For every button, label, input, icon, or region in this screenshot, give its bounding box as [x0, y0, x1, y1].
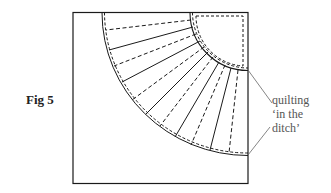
leader-line-top: [248, 70, 272, 103]
leader-line-bottom: [248, 127, 270, 155]
outer-fan-quilting: [105, 13, 249, 154]
quilt-fan-diagram: [0, 0, 331, 193]
block-outline: [73, 13, 248, 184]
inner-ditch-quilting-inner: [196, 16, 243, 66]
outer-fan-arc: [102, 13, 248, 156]
